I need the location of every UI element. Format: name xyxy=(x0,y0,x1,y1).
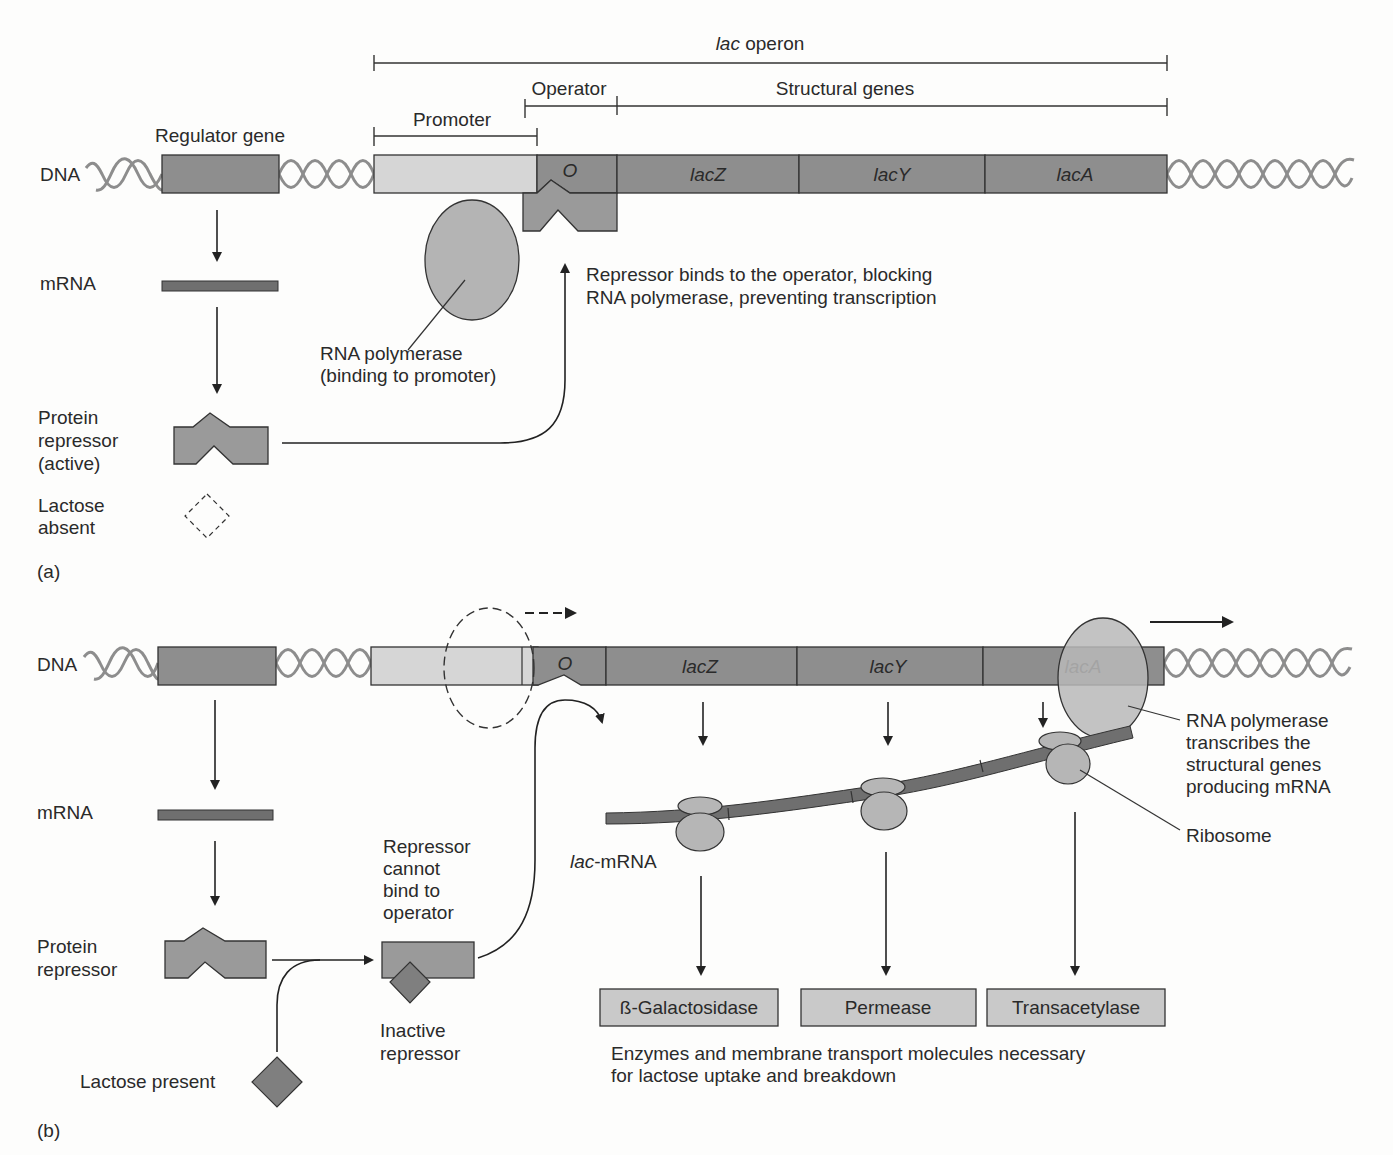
repressor-cannot-bind-line1: Repressor xyxy=(383,836,471,857)
gene-lacz-label: lacZ xyxy=(690,164,727,185)
lactose-present-label: Lactose present xyxy=(80,1071,216,1092)
rna-polymerase-transcribing xyxy=(1058,618,1148,738)
operator-symbol: O xyxy=(563,160,578,181)
rna-polymerase-label-line2: (binding to promoter) xyxy=(320,365,496,386)
repressor-note-line1: Repressor binds to the operator, blockin… xyxy=(586,264,932,285)
repressor-cannot-bind-line4: operator xyxy=(383,902,454,923)
regulator-gene-box xyxy=(162,155,279,193)
rna-polymerase-note-line1: RNA polymerase xyxy=(1186,710,1329,731)
lac-operon-bracket: lac operon xyxy=(374,33,1167,71)
gene-lacy-label: lacY xyxy=(874,164,912,185)
active-repressor xyxy=(174,413,268,464)
repressor-note-line2: RNA polymerase, preventing transcription xyxy=(586,287,937,308)
panel-b: DNA O lacZ lacY lacA xyxy=(37,607,1352,1141)
panel-b-label: (b) xyxy=(37,1120,60,1141)
arrow-lactose-joins xyxy=(277,960,320,1052)
gene-laca-label: lacA xyxy=(1057,164,1094,185)
protein-repressor-label-b-line2: repressor xyxy=(37,959,118,980)
dna-helix-middle-b xyxy=(276,650,371,677)
dna-helix-right xyxy=(1167,159,1354,187)
ribosome-2 xyxy=(861,778,907,830)
lactose-present-diamond xyxy=(252,1057,302,1107)
ribosome-leader-line xyxy=(1080,770,1180,830)
enzyme-galactosidase-label: ß-Galactosidase xyxy=(620,997,758,1018)
dna-label: DNA xyxy=(40,164,80,185)
regulator-gene-box-b xyxy=(158,647,276,685)
protein-repressor-label-line3: (active) xyxy=(38,453,100,474)
lactose-absent-label-line2: absent xyxy=(38,517,96,538)
repressor-cannot-bind-line3: bind to xyxy=(383,880,440,901)
ribosome-label: Ribosome xyxy=(1186,825,1272,846)
operator-label: Operator xyxy=(532,78,608,99)
rna-polymerase xyxy=(425,200,519,320)
dna-helix-left xyxy=(86,159,162,190)
promoter-box xyxy=(374,155,537,193)
repressor-cannot-bind-line2: cannot xyxy=(383,858,441,879)
enzymes-note-line1: Enzymes and membrane transport molecules… xyxy=(611,1043,1086,1064)
rna-polymerase-label-line1: RNA polymerase xyxy=(320,343,463,364)
lactose-absent-diamond xyxy=(185,494,229,538)
arrow-repressor-deflected xyxy=(478,700,602,958)
regulator-gene-label: Regulator gene xyxy=(155,125,285,146)
protein-repressor-label-line1: Protein xyxy=(38,407,98,428)
inactive-repressor-label-line2: repressor xyxy=(380,1043,461,1064)
lactose-absent-label-line1: Lactose xyxy=(38,495,105,516)
enzymes-note-line2: for lactose uptake and breakdown xyxy=(611,1065,896,1086)
enzyme-transacetylase-label: Transacetylase xyxy=(1012,997,1140,1018)
lac-operon-diagram: lac operon Operator Structural genes Pro… xyxy=(0,0,1393,1155)
mrna-label: mRNA xyxy=(40,273,96,294)
mrna-label-b: mRNA xyxy=(37,802,93,823)
rna-polymerase-note-line4: producing mRNA xyxy=(1186,776,1331,797)
dna-label-b: DNA xyxy=(37,654,77,675)
operator-symbol-b: O xyxy=(558,653,573,674)
mrna-bar xyxy=(162,281,278,291)
protein-repressor-b xyxy=(165,928,266,978)
protein-repressor-label-b-line1: Protein xyxy=(37,936,97,957)
enzyme-permease-label: Permease xyxy=(845,997,932,1018)
promoter-label: Promoter xyxy=(413,109,492,130)
gene-lacy-label-b: lacY xyxy=(870,656,908,677)
promoter-box-b xyxy=(371,647,538,685)
panel-a: lac operon Operator Structural genes Pro… xyxy=(37,33,1354,582)
operator-bracket: Operator xyxy=(525,78,617,118)
promoter-bracket: Promoter xyxy=(374,109,537,146)
rna-polymerase-note-line2: transcribes the xyxy=(1186,732,1311,753)
panel-a-label: (a) xyxy=(37,561,60,582)
protein-repressor-label-line2: repressor xyxy=(38,430,119,451)
structural-genes-label: Structural genes xyxy=(776,78,914,99)
mrna-bar-b xyxy=(158,810,273,820)
structural-genes-bracket: Structural genes xyxy=(617,78,1167,116)
gene-lacz-label-b: lacZ xyxy=(682,656,719,677)
transcription-arrow-head xyxy=(1222,616,1234,628)
dna-helix-middle xyxy=(279,161,374,188)
lac-mrna-label: lac-mRNA xyxy=(570,851,657,872)
inactive-repressor-body xyxy=(382,942,474,978)
ribosome-1 xyxy=(676,797,724,851)
dna-helix-left-b xyxy=(84,648,158,679)
dashed-arrow-head xyxy=(565,607,577,619)
rna-polymerase-note-line3: structural genes xyxy=(1186,754,1321,775)
inactive-repressor-label-line1: Inactive xyxy=(380,1020,445,1041)
dna-helix-right-b xyxy=(1164,648,1352,676)
lac-operon-label: lac operon xyxy=(716,33,805,54)
